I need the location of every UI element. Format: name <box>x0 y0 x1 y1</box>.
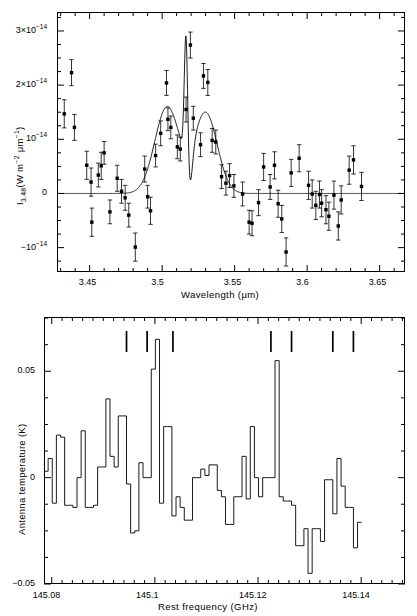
top-y-tick-label: −10−14 <box>0 243 47 252</box>
top-y-tick-label: 3×10−14 <box>0 26 47 35</box>
top-fit-curve <box>57 36 405 193</box>
top-x-tick-label: 3.45 <box>79 278 97 287</box>
top-x-axis-title: Wavelength (μm) <box>181 289 259 300</box>
bottom-y-tick-label: 0.05 <box>0 366 35 375</box>
bottom-plot-canvas <box>0 305 417 616</box>
top-plot-canvas <box>0 0 417 305</box>
top-x-tick-label: 3.6 <box>296 278 309 287</box>
bottom-x-tick-label: 145.12 <box>239 591 267 600</box>
top-data-points <box>62 32 364 266</box>
top-x-tick-label: 3.65 <box>369 278 387 287</box>
bottom-y-tick-label: −0.05 <box>0 579 35 588</box>
bottom-x-tick-label: 145.1 <box>136 591 159 600</box>
top-x-tick-label: 3.5 <box>151 278 164 287</box>
millimeter-spectrum-panel: Antenna temperature (K) Rest frequency (… <box>0 305 417 616</box>
infrared-spectrum-panel: I3.48(W m−2 μm−1) Wavelength (μm) 3.453.… <box>0 0 417 305</box>
top-y-tick-label: 2×10−14 <box>0 80 47 89</box>
top-x-tick-label: 3.55 <box>224 278 242 287</box>
bottom-line-markers <box>127 331 354 352</box>
top-y-tick-label: 0 <box>0 188 47 197</box>
bottom-x-tick-label: 145.08 <box>33 591 61 600</box>
bottom-spectrum-trace <box>44 339 362 573</box>
bottom-y-tick-label: 0 <box>0 473 35 482</box>
top-y-tick-label: 10−14 <box>0 134 47 143</box>
bottom-x-axis-title: Rest frequency (GHz) <box>158 601 258 612</box>
bottom-x-tick-label: 145.14 <box>342 591 370 600</box>
